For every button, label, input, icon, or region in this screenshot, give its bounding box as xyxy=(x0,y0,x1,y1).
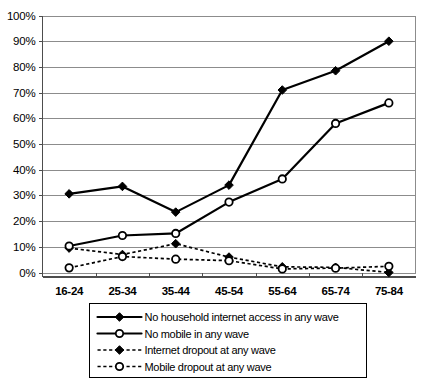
y-axis-tick-label: 0% xyxy=(19,267,35,279)
plot-frame xyxy=(43,16,416,277)
data-point-marker xyxy=(118,182,127,191)
line-chart: 0%10%20%30%40%50%60%70%80%90%100% 16-242… xyxy=(0,0,425,386)
chart-container: 0%10%20%30%40%50%60%70%80%90%100% 16-242… xyxy=(0,0,425,386)
legend-item-label: Mobile dropout at any wave xyxy=(145,361,272,373)
data-point-marker xyxy=(119,232,126,239)
chart-legend: No household internet access in any wave… xyxy=(90,304,367,378)
data-point-marker xyxy=(172,230,179,237)
legend-item-label: No household internet access in any wave xyxy=(145,311,339,323)
x-axis-tick-label: 45-54 xyxy=(215,285,244,297)
data-point-marker xyxy=(279,175,286,182)
y-axis-tick-label: 50% xyxy=(13,138,35,150)
y-axis-tick-label: 80% xyxy=(13,61,35,73)
data-point-marker xyxy=(385,263,392,270)
series-markers xyxy=(65,37,393,277)
data-point-marker xyxy=(119,253,126,260)
data-point-marker xyxy=(225,198,232,205)
data-point-marker xyxy=(225,181,234,190)
series-lines xyxy=(69,41,389,272)
y-axis-tick-labels: 0%10%20%30%40%50%60%70%80%90%100% xyxy=(7,10,43,279)
gridlines xyxy=(43,17,416,274)
series-line xyxy=(69,103,389,246)
y-axis-tick-label: 10% xyxy=(13,241,35,253)
y-axis-tick-label: 20% xyxy=(13,215,35,227)
y-axis-tick-label: 100% xyxy=(7,10,36,22)
data-point-marker xyxy=(279,265,286,272)
y-axis-tick-label: 70% xyxy=(13,87,35,99)
data-point-marker xyxy=(225,257,232,264)
y-axis-tick-label: 30% xyxy=(13,189,35,201)
x-axis-tick-label: 65-74 xyxy=(322,285,351,297)
legend-item-label: No mobile in any wave xyxy=(145,328,250,340)
x-axis-tick-labels: 16-2425-3435-4445-5455-6465-7475-84 xyxy=(55,285,404,297)
data-point-marker xyxy=(385,37,394,46)
data-point-marker xyxy=(172,255,179,262)
x-axis-tick-label: 75-84 xyxy=(375,285,404,297)
data-point-marker xyxy=(332,120,339,127)
data-point-marker xyxy=(171,239,180,248)
data-point-marker xyxy=(65,242,72,249)
data-point-marker xyxy=(171,208,180,217)
y-axis-tick-label: 90% xyxy=(13,35,35,47)
data-point-marker xyxy=(385,99,392,106)
legend-item[interactable]: No mobile in any wave xyxy=(98,328,250,340)
data-point-marker xyxy=(65,190,74,199)
y-axis-tick-label: 40% xyxy=(13,164,35,176)
legend-item-label: Internet dropout at any wave xyxy=(145,344,276,356)
x-axis-tick-label: 25-34 xyxy=(108,285,137,297)
data-point-marker xyxy=(332,264,339,271)
data-point-marker xyxy=(65,264,72,271)
legend-marker-sample xyxy=(116,330,123,337)
y-axis-tick-label: 60% xyxy=(13,112,35,124)
x-axis-tick-label: 55-64 xyxy=(268,285,297,297)
legend-marker-sample xyxy=(116,363,123,370)
x-axis-tick-label: 16-24 xyxy=(55,285,84,297)
x-axis-tick-label: 35-44 xyxy=(162,285,191,297)
